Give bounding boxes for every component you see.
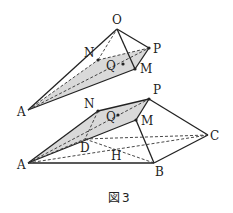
label-Q: Q — [106, 110, 116, 124]
label-N: N — [84, 46, 95, 60]
label-D: D — [80, 141, 90, 155]
label-Q: Q — [106, 59, 116, 73]
point-N — [96, 58, 99, 61]
hidden-edge-DC — [85, 135, 208, 139]
label-A: A — [16, 158, 26, 172]
point-Q — [121, 62, 124, 65]
label-B: B — [155, 165, 164, 179]
figure-caption: 図 3 — [108, 191, 130, 205]
point-M — [134, 118, 137, 121]
point-N — [96, 109, 99, 112]
label-M: M — [140, 62, 152, 76]
point-M — [133, 67, 136, 70]
label-N: N — [84, 97, 95, 111]
label-O: O — [112, 13, 122, 27]
label-P: P — [153, 42, 161, 56]
label-M: M — [141, 114, 153, 128]
point-P — [147, 97, 150, 100]
edge-BC — [154, 135, 208, 163]
caption-number: 3 — [122, 191, 130, 205]
label-P: P — [153, 83, 161, 97]
point-Q — [116, 113, 119, 116]
label-A: A — [16, 105, 26, 119]
geometry-diagram: O P M N Q A N — [0, 0, 233, 213]
label-H: H — [111, 149, 121, 163]
edge-PC — [149, 99, 208, 135]
figure-3: O P M N Q A N — [0, 0, 233, 213]
point-P — [147, 46, 150, 49]
label-C: C — [210, 129, 219, 143]
caption-kanji: 図 — [108, 191, 120, 205]
